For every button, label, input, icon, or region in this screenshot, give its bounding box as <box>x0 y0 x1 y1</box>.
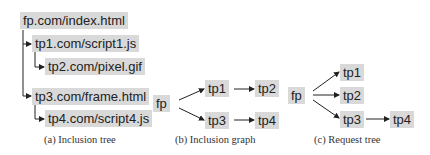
graph-node-tp3: tp3 <box>205 112 229 129</box>
request-node-tp4: tp4 <box>390 111 414 128</box>
caption-request-tree: (c) Request tree <box>314 134 380 145</box>
graph-node-tp2: tp2 <box>255 80 279 97</box>
tree-node-tp3-frame: tp3.com/frame.html <box>32 88 149 105</box>
request-node-tp2: tp2 <box>340 87 364 104</box>
tree-node-tp4-script4: tp4.com/script4.js <box>45 110 152 127</box>
caption-inclusion-tree: (a) Inclusion tree <box>44 134 116 145</box>
tree-node-tp2-pixel: tp2.com/pixel.gif <box>45 58 145 75</box>
tree-node-tp1-script1: tp1.com/script1.js <box>32 35 139 52</box>
graph-node-tp1: tp1 <box>205 80 229 97</box>
request-node-tp1: tp1 <box>340 64 364 81</box>
graph-node-tp4: tp4 <box>255 112 279 129</box>
graph-node-fp: fp <box>153 95 170 112</box>
request-node-tp3: tp3 <box>340 111 364 128</box>
caption-inclusion-graph: (b) Inclusion graph <box>175 134 255 145</box>
request-node-fp: fp <box>288 87 305 104</box>
tree-node-fp-index: fp.com/index.html <box>20 12 128 29</box>
